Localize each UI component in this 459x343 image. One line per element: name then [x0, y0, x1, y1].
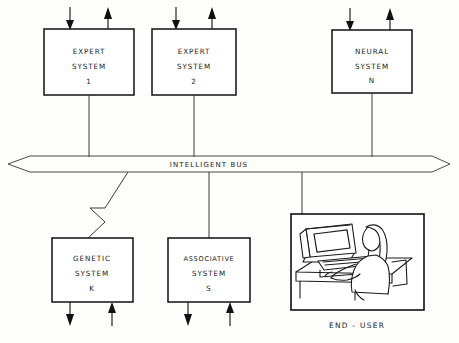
- expert-system-2-line1: EXPERT: [178, 47, 211, 56]
- neural-system-n-line2: SYSTEM: [355, 62, 389, 71]
- genetic-system-k-line1: GENETIC: [73, 254, 111, 263]
- up-arrow-output-neural-n: [386, 8, 394, 30]
- associative-system-s-line3: S: [206, 284, 211, 293]
- end-user-label: END - USER: [329, 321, 385, 330]
- neural-system-n-line3: N: [369, 76, 375, 85]
- up-arrow-output-expert-2: [208, 7, 216, 29]
- up-arrow-input-associative-s: [226, 302, 234, 326]
- neural-system-n-line1: NEURAL: [355, 47, 389, 56]
- architecture-diagram: EXPERT SYSTEM 1 EXPERT SYSTEM 2: [0, 0, 459, 343]
- associative-system-s-line1: ASSOCIATIVE: [184, 255, 235, 263]
- expert-system-1-line3: 1: [86, 77, 91, 86]
- associative-system-s-line2: SYSTEM: [192, 269, 226, 278]
- node-neural-system-n[interactable]: NEURAL SYSTEM N: [332, 8, 412, 157]
- intelligent-bus[interactable]: INTELLIGENT BUS: [8, 156, 450, 172]
- bus-right-arrowhead: [432, 156, 450, 172]
- bus-left-arrowhead: [8, 156, 30, 172]
- zigzag-connector-genetic-k: [88, 172, 128, 238]
- expert-system-2-line3: 2: [191, 77, 196, 86]
- crt-monitor-screen: [314, 230, 350, 252]
- expert-system-1-line1: EXPERT: [73, 47, 106, 56]
- down-arrow-input-expert-2: [172, 7, 180, 30]
- node-associative-system-s[interactable]: ASSOCIATIVE SYSTEM S: [168, 172, 250, 326]
- expert-system-1-line2: SYSTEM: [72, 62, 106, 71]
- node-expert-system-1[interactable]: EXPERT SYSTEM 1: [44, 7, 134, 157]
- down-arrow-input-neural-n: [346, 8, 354, 31]
- up-arrow-input-genetic-k: [108, 302, 116, 326]
- node-expert-system-2[interactable]: EXPERT SYSTEM 2: [152, 7, 236, 157]
- node-genetic-system-k[interactable]: GENETIC SYSTEM K: [52, 172, 133, 326]
- down-arrow-output-genetic-k: [66, 302, 74, 326]
- down-arrow-input-expert-1: [66, 7, 74, 30]
- expert-system-2-line2: SYSTEM: [177, 62, 211, 71]
- down-arrow-output-associative-s: [184, 302, 192, 326]
- end-user-panel[interactable]: END - USER: [291, 172, 424, 330]
- diagram-canvas: EXPERT SYSTEM 1 EXPERT SYSTEM 2: [0, 0, 459, 343]
- genetic-system-k-line3: K: [89, 284, 95, 293]
- up-arrow-output-expert-1: [104, 7, 112, 29]
- intelligent-bus-label: INTELLIGENT BUS: [170, 161, 248, 169]
- genetic-system-k-line2: SYSTEM: [75, 269, 109, 278]
